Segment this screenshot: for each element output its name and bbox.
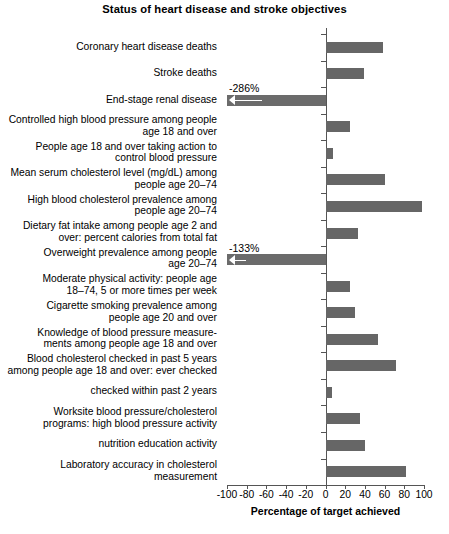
bar: [326, 307, 356, 318]
bar: [326, 121, 351, 132]
category-label: checked within past 2 years: [91, 385, 218, 397]
y-tick: [321, 193, 326, 194]
y-tick: [321, 405, 326, 406]
x-tick-label-40: 40: [359, 489, 370, 500]
x-axis-title: Percentage of target achieved: [227, 505, 424, 517]
x-tick-label--80: -80: [239, 489, 254, 500]
y-tick: [321, 326, 326, 327]
y-tick: [321, 432, 326, 433]
x-tick-label-100: 100: [415, 489, 432, 500]
x-tick-label-group: -100-80-60-40-20020406080100: [0, 489, 449, 503]
negative-value-annotation: -286%: [229, 82, 259, 94]
y-tick: [321, 114, 326, 115]
category-label-group: Coronary heart disease deathsStroke deat…: [0, 28, 222, 485]
y-tick: [321, 273, 326, 274]
x-tick-label--40: -40: [279, 489, 294, 500]
category-label: Overweight prevalence among people age 2…: [44, 247, 217, 270]
category-label: Mean serum cholesterol level (mg/dL) amo…: [10, 167, 217, 190]
bar: [326, 148, 334, 159]
bar: [326, 413, 361, 424]
category-label: nutrition education activity: [99, 438, 217, 450]
y-tick: [321, 220, 326, 221]
category-label: Knowledge of blood pressure measure- men…: [37, 327, 217, 350]
y-tick: [321, 34, 326, 35]
category-label: Cigarette smoking prevalence among peopl…: [46, 300, 217, 323]
category-label: Moderate physical activity: people age 1…: [42, 273, 217, 296]
plot-area: [227, 28, 424, 485]
bar: [326, 466, 407, 477]
x-tick-label-0: 0: [323, 489, 329, 500]
y-tick: [321, 167, 326, 168]
chart-title: Status of heart disease and stroke objec…: [0, 3, 449, 15]
bar-clip-arrow-shaft: [234, 260, 246, 261]
category-label: End-stage renal disease: [106, 94, 217, 106]
category-label: Coronary heart disease deaths: [76, 41, 217, 53]
x-tick-label--60: -60: [259, 489, 274, 500]
y-tick: [321, 140, 326, 141]
category-label: Dietary fat intake among people age 2 an…: [23, 220, 217, 243]
y-tick: [321, 379, 326, 380]
y-tick: [321, 352, 326, 353]
bar: [326, 360, 397, 371]
category-label: People age 18 and over taking action to …: [36, 141, 217, 164]
bar: [326, 42, 383, 53]
category-label: Blood cholesterol checked in past 5 year…: [7, 353, 217, 376]
y-tick: [321, 61, 326, 62]
x-tick-label-60: 60: [379, 489, 390, 500]
bar: [326, 440, 365, 451]
bar: [326, 174, 385, 185]
bar: [326, 228, 359, 239]
bar: [326, 387, 333, 398]
x-tick-label--100: -100: [217, 489, 238, 500]
category-label: Worksite blood pressure/cholesterol prog…: [43, 406, 217, 429]
y-tick: [321, 299, 326, 300]
bar: [326, 201, 423, 212]
category-label: Laboratory accuracy in cholesterol measu…: [60, 459, 217, 482]
category-label: Controlled high blood pressure among peo…: [9, 114, 217, 137]
negative-value-annotation: -133%: [229, 242, 259, 254]
category-label: Stroke deaths: [153, 67, 217, 79]
y-tick: [321, 459, 326, 460]
chart-root: Status of heart disease and stroke objec…: [0, 0, 449, 534]
bar: [326, 281, 351, 292]
bar: [326, 334, 378, 345]
x-tick-label-20: 20: [339, 489, 350, 500]
y-tick: [321, 246, 326, 247]
bar: [326, 68, 364, 79]
x-tick-label--20: -20: [298, 489, 313, 500]
bar-clip-arrow-shaft: [234, 100, 262, 101]
x-tick-label-80: 80: [399, 489, 410, 500]
category-label: High blood cholesterol prevalence among …: [28, 194, 217, 217]
y-tick: [321, 87, 326, 88]
